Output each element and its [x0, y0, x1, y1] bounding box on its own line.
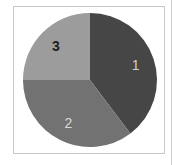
pie-slices — [23, 13, 157, 147]
slice-label-1: 1 — [132, 57, 140, 73]
slice-label-3: 3 — [52, 38, 60, 54]
pie-chart: 123 — [0, 0, 173, 165]
slice-label-2: 2 — [65, 115, 73, 131]
